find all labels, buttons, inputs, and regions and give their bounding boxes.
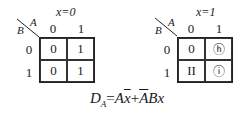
kmap-cell-circled: ⓗ [205,38,232,60]
col-header: 1 [67,21,95,37]
kmap-grid: 0 1 0 1 [39,37,95,83]
kmap-cell: II [178,60,205,82]
row-variable-label: B [17,24,24,36]
formula-term2-b: Bx [148,90,164,106]
formula-equals: = [106,90,114,106]
formula-lhs: D [90,90,101,106]
row-variable-label: B [155,24,162,36]
col-variable-label: A [30,16,37,28]
row-header: 1 [24,65,34,81]
kmap-cell: 1 [67,60,94,82]
col-header: 0 [39,21,67,37]
kmap-cell: 0 [178,38,205,60]
formula-term1-b-complement: x [124,90,131,106]
kmap-grid: 0 ⓗ II ⓘ [177,37,233,83]
row-header: 0 [24,42,34,58]
row-header: 1 [162,65,172,81]
boolean-formula: DA=Ax+ABx [90,90,164,109]
kmap-title: x=0 [56,5,75,20]
kmap-cell: 1 [67,38,94,60]
col-header: 1 [205,21,233,37]
formula-term1-a: A [115,90,124,106]
col-variable-label: A [168,16,175,28]
kmap-title: x=1 [196,5,215,20]
kmap-cell: 0 [40,38,67,60]
formula-plus: + [131,90,139,106]
row-header: 0 [162,42,172,58]
formula-term2-a-complement: A [139,90,148,106]
kmap-x1: x=1 A B 0 1 0 1 0 ⓗ II ⓘ [123,0,246,88]
col-header: 0 [177,21,205,37]
kmap-cell-circled: ⓘ [205,60,232,82]
kmap-x0: x=0 A B 0 1 0 1 0 1 0 1 [0,0,123,88]
kmap-cell: 0 [40,60,67,82]
